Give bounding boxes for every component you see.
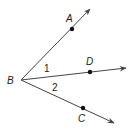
label-c: C: [78, 113, 86, 124]
label-a: A: [65, 13, 73, 24]
label-d: D: [86, 56, 93, 67]
point-c: [81, 106, 85, 110]
point-a: [70, 27, 74, 31]
angle-diagram: B A D C 1 2: [0, 0, 131, 132]
ray-ba: [21, 9, 90, 80]
angle-label-1: 1: [44, 63, 50, 74]
ray-bc: [21, 80, 114, 123]
point-d: [88, 70, 92, 74]
ray-bd: [21, 68, 126, 80]
label-b: B: [7, 75, 14, 86]
angle-label-2: 2: [52, 82, 58, 93]
